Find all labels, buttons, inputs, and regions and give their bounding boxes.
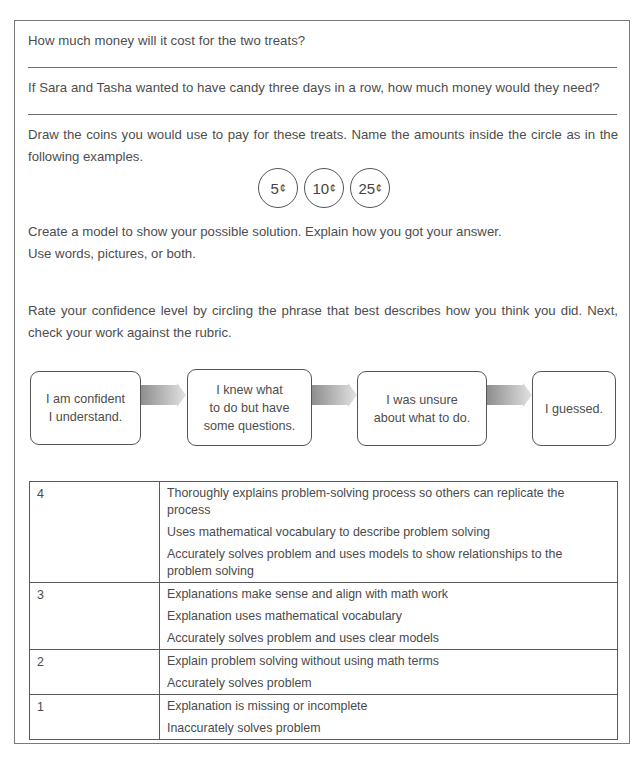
level-text: I understand. [46, 408, 125, 426]
rubric-score: 3 [30, 583, 160, 650]
criterion: Explain problem solving without using ma… [167, 653, 610, 670]
coin-value: 5 [271, 180, 279, 197]
model-instruction-line-2: Use words, pictures, or both. [28, 243, 618, 265]
confidence-level-unsure[interactable]: I was unsure about what to do. [357, 371, 487, 446]
coin-5-cents: 5¢ [258, 168, 298, 208]
rubric-score: 4 [30, 482, 160, 583]
rubric-row-1: 1 Explanation is missing or incomplete I… [30, 695, 618, 740]
criterion: Explanation uses mathematical vocabulary [167, 608, 610, 625]
confidence-instruction: Rate your confidence level by circling t… [28, 300, 618, 344]
coin-examples: 5¢ 10¢ 25¢ [258, 168, 390, 208]
cent-sign: ¢ [330, 183, 336, 194]
model-instruction: Create a model to show your possible sol… [28, 221, 618, 265]
level-text: about what to do. [374, 409, 471, 427]
question-cost-two-treats: How much money will it cost for the two … [28, 33, 305, 48]
rubric-row-3: 3 Explanations make sense and align with… [30, 583, 618, 650]
criterion: Thoroughly explains problem-solving proc… [167, 485, 610, 519]
arrow-right-icon [141, 383, 186, 407]
model-instruction-line-1: Create a model to show your possible sol… [28, 221, 618, 243]
criterion: Accurately solves problem and uses clear… [167, 630, 610, 647]
level-text: to do but have [204, 399, 296, 417]
criterion: Accurately solves problem and uses model… [167, 546, 610, 580]
answer-line-2[interactable] [28, 114, 617, 115]
rubric-criteria: Explanation is missing or incomplete Ina… [160, 695, 618, 740]
level-text: I knew what [204, 381, 296, 399]
rubric-criteria: Explain problem solving without using ma… [160, 650, 618, 695]
coin-value: 25 [358, 180, 375, 197]
cent-sign: ¢ [376, 183, 382, 194]
rubric-row-2: 2 Explain problem solving without using … [30, 650, 618, 695]
level-text: I guessed. [545, 400, 603, 418]
rubric-table: 4 Thoroughly explains problem-solving pr… [29, 481, 618, 740]
coin-25-cents: 25¢ [350, 168, 390, 208]
rubric-criteria: Thoroughly explains problem-solving proc… [160, 482, 618, 583]
answer-line-1[interactable] [28, 67, 617, 68]
confidence-level-some-questions[interactable]: I knew what to do but have some question… [187, 369, 312, 446]
confidence-level-confident[interactable]: I am confident I understand. [30, 371, 141, 445]
arrow-right-icon [487, 383, 532, 407]
rubric-criteria: Explanations make sense and align with m… [160, 583, 618, 650]
confidence-level-guessed[interactable]: I guessed. [532, 371, 616, 446]
question-three-days: If Sara and Tasha wanted to have candy t… [28, 80, 600, 95]
coin-value: 10 [312, 180, 329, 197]
coins-instruction: Draw the coins you would use to pay for … [28, 124, 618, 168]
rubric-score: 2 [30, 650, 160, 695]
criterion: Inaccurately solves problem [167, 720, 610, 737]
criterion: Uses mathematical vocabulary to describe… [167, 524, 610, 541]
rubric-score: 1 [30, 695, 160, 740]
level-text: I was unsure [374, 391, 471, 409]
level-text: I am confident [46, 390, 125, 408]
arrow-right-icon [312, 383, 357, 407]
worksheet-frame: How much money will it cost for the two … [14, 20, 630, 744]
criterion: Explanation is missing or incomplete [167, 698, 610, 715]
criterion: Accurately solves problem [167, 675, 610, 692]
criterion: Explanations make sense and align with m… [167, 586, 610, 603]
coin-10-cents: 10¢ [304, 168, 344, 208]
level-text: some questions. [204, 417, 296, 435]
cent-sign: ¢ [280, 183, 286, 194]
rubric-row-4: 4 Thoroughly explains problem-solving pr… [30, 482, 618, 583]
